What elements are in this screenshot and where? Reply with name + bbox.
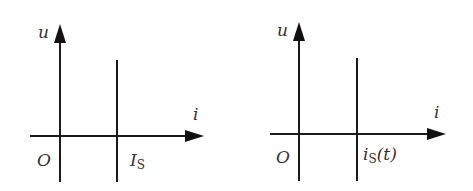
- u-axis-label: u: [277, 20, 288, 40]
- u-axis-arrow-icon: [54, 24, 66, 43]
- current-source-characteristic-diagrams: u i O IS u i O iS(t): [0, 0, 473, 191]
- origin-label: O: [276, 147, 290, 167]
- u-axis-label: u: [38, 22, 49, 42]
- i-axis-arrow-icon: [427, 128, 446, 140]
- origin-label: O: [37, 150, 51, 170]
- i-axis-arrow-icon: [185, 130, 204, 142]
- i-axis-label: i: [193, 104, 198, 124]
- u-axis-arrow-icon: [293, 22, 305, 41]
- diagram-svg: u i O IS u i O iS(t): [0, 0, 473, 191]
- dc-current-source-plot: u i O IS: [30, 22, 204, 182]
- time-varying-current-source-plot: u i O iS(t): [270, 20, 446, 181]
- source-value-label: IS: [129, 150, 145, 172]
- source-value-label: iS(t): [363, 144, 397, 166]
- i-axis-label: i: [434, 102, 439, 122]
